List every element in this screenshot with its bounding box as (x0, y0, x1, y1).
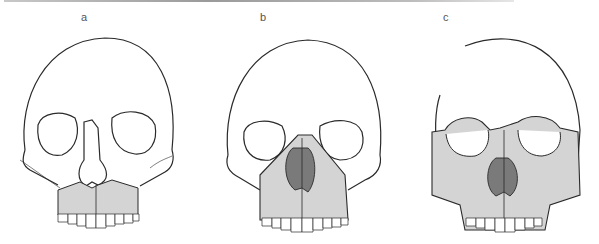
top-rule (4, 0, 514, 2)
panel-label-a: a (81, 11, 87, 23)
skull-illustration-b (200, 30, 400, 244)
skull-illustration-c (400, 30, 599, 244)
panel-label-c: c (443, 11, 449, 23)
panel-label-b: b (260, 11, 266, 23)
skull-illustration-a (0, 30, 200, 244)
